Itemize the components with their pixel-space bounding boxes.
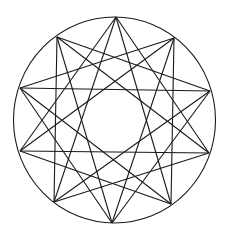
chord-line bbox=[116, 17, 171, 204]
chord-line bbox=[112, 38, 174, 223]
chord-line bbox=[54, 153, 209, 202]
star-polygon-figure bbox=[0, 0, 227, 241]
chord-line bbox=[54, 37, 57, 202]
chord-line bbox=[20, 151, 171, 204]
chord-line bbox=[171, 38, 174, 204]
chord-line bbox=[57, 37, 210, 91]
outer-circle bbox=[14, 17, 216, 223]
chord-line bbox=[116, 17, 209, 153]
chord-line bbox=[57, 37, 209, 153]
chord-line bbox=[20, 88, 171, 204]
chord-line bbox=[20, 38, 174, 88]
chord-line bbox=[20, 151, 209, 153]
chord-line bbox=[20, 17, 116, 151]
star-chords bbox=[20, 17, 210, 223]
chord-line bbox=[57, 37, 112, 223]
chord-line bbox=[20, 88, 210, 91]
